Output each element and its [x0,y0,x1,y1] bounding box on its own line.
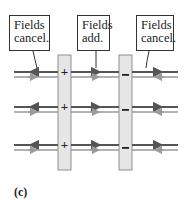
positive-charge-2: + [61,99,68,114]
callout-left: Fields cancel. [9,15,50,51]
callout-right-line2: cancel. [141,32,169,45]
callout-between-line2: add. [82,32,105,45]
parallel-plates-field-diagram: + + + Fields cancel. Fields add. Fields … [0,0,192,204]
callout-right: Fields cancel. [136,15,174,51]
callout-between: Fields add. [77,15,110,51]
positive-charge-1: + [61,64,68,79]
callout-pointer-left [33,51,37,68]
negative-plate [119,55,132,170]
negative-charge-1 [122,74,129,76]
negative-charge-3 [122,147,129,149]
figure-caption: (c) [14,185,27,200]
field-row-2 [14,107,178,112]
field-row-1 [14,72,178,77]
callout-pointer-right [146,51,149,68]
field-row-3 [14,145,178,150]
positive-charge-3: + [61,137,68,152]
callout-left-line2: cancel. [14,32,45,45]
negative-charge-2 [122,109,129,111]
